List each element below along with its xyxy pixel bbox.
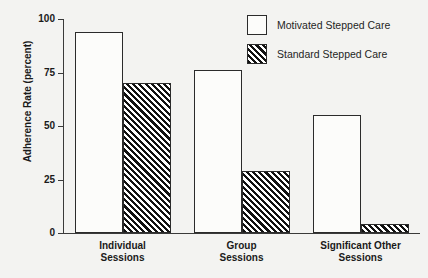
- legend-item: Motivated Stepped Care: [247, 14, 390, 35]
- bar-chart-figure: Adherence Rate (percent) 0255075100 Indi…: [0, 0, 428, 278]
- y-tick-label: 0: [0, 228, 55, 238]
- y-tick-label: 75: [0, 68, 55, 78]
- legend-label: Standard Stepped Care: [277, 48, 387, 60]
- legend-item: Standard Stepped Care: [247, 43, 390, 64]
- x-axis-line: [63, 233, 420, 234]
- category-label: Significant Other Sessions: [289, 240, 428, 264]
- bar: [361, 224, 409, 233]
- bar: [194, 70, 242, 233]
- chart-legend: Motivated Stepped CareStandard Stepped C…: [247, 14, 390, 72]
- bar: [75, 32, 123, 233]
- y-tick-label: 50: [0, 121, 55, 131]
- legend-swatch-icon: [247, 44, 267, 64]
- y-axis-title: Adherence Rate (percent): [22, 17, 33, 187]
- y-tick-label: 25: [0, 175, 55, 185]
- bar: [123, 83, 171, 233]
- bar: [242, 171, 290, 233]
- legend-swatch-icon: [247, 15, 267, 35]
- legend-label: Motivated Stepped Care: [277, 19, 390, 31]
- bar: [313, 115, 361, 233]
- y-tick-label: 100: [0, 14, 55, 24]
